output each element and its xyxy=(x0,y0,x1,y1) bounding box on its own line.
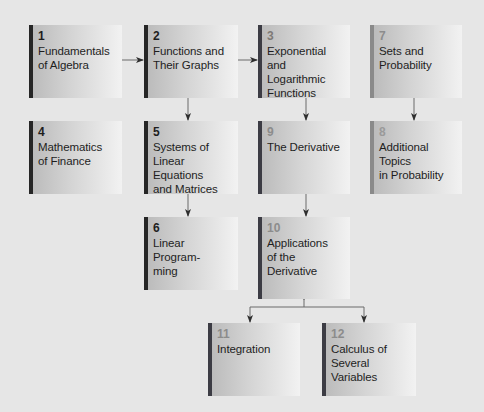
chapter-box-3: 3 Exponential and Logarithmic Functions xyxy=(258,25,350,98)
chapter-box-5: 5 Systems of Linear Equations and Matric… xyxy=(144,121,238,194)
chapter-number: 2 xyxy=(153,30,234,43)
chapter-bar xyxy=(370,121,374,194)
chapter-bar xyxy=(258,217,262,299)
chapter-box-9: 9 The Derivative xyxy=(258,121,350,194)
chapter-title: Sets and Probability xyxy=(379,44,458,72)
chapter-number: 5 xyxy=(153,126,234,139)
chapter-number: 7 xyxy=(379,30,458,43)
chapter-bar xyxy=(144,25,148,98)
chapter-number: 3 xyxy=(267,30,346,43)
chapter-title: Calculus of Several Variables xyxy=(331,342,412,384)
chapter-title: Systems of Linear Equations and Matrices xyxy=(153,140,234,196)
chapter-bar xyxy=(208,323,212,396)
chapter-bar xyxy=(258,121,262,194)
chapter-box-7: 7 Sets and Probability xyxy=(370,25,462,98)
chapter-title: Additional Topics in Probability xyxy=(379,140,458,182)
chapter-title: Integration xyxy=(217,342,296,356)
chapter-title: The Derivative xyxy=(267,140,346,154)
chapter-title: Exponential and Logarithmic Functions xyxy=(267,44,346,100)
chapter-title: Mathematics of Finance xyxy=(38,140,118,168)
chapter-number: 8 xyxy=(379,126,458,139)
chapter-bar xyxy=(370,25,374,98)
chapter-title: Linear Program- ming xyxy=(153,236,234,278)
chapter-bar xyxy=(322,323,326,396)
chapter-bar xyxy=(258,25,262,98)
chapter-bar xyxy=(144,217,148,290)
chapter-number: 11 xyxy=(217,328,296,341)
chapter-box-2: 2 Functions and Their Graphs xyxy=(144,25,238,98)
chapter-number: 12 xyxy=(331,328,412,341)
chapter-bar xyxy=(29,25,33,98)
chapter-title: Applications of the Derivative xyxy=(267,236,346,278)
chapter-title: Fundamentals of Algebra xyxy=(38,44,118,72)
chapter-box-12: 12 Calculus of Several Variables xyxy=(322,323,416,396)
chapter-number: 10 xyxy=(267,222,346,235)
chapter-box-11: 11 Integration xyxy=(208,323,300,396)
chapter-bar xyxy=(144,121,148,194)
chapter-box-6: 6 Linear Program- ming xyxy=(144,217,238,290)
chapter-number: 6 xyxy=(153,222,234,235)
chapter-title: Functions and Their Graphs xyxy=(153,44,234,72)
chapter-box-10: 10 Applications of the Derivative xyxy=(258,217,350,299)
chapter-number: 4 xyxy=(38,126,118,139)
chapter-box-4: 4 Mathematics of Finance xyxy=(29,121,122,194)
chapter-number: 1 xyxy=(38,30,118,43)
chapter-box-8: 8 Additional Topics in Probability xyxy=(370,121,462,194)
chapter-bar xyxy=(29,121,33,194)
chapter-number: 9 xyxy=(267,126,346,139)
chapter-box-1: 1 Fundamentals of Algebra xyxy=(29,25,122,98)
